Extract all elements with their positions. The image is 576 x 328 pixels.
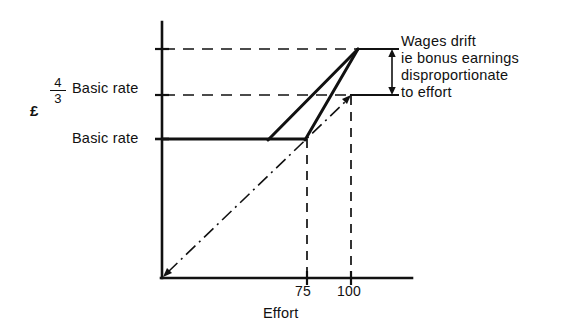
wages-drift-annotation: Wages drift ie bonus earnings disproport… [401,33,519,101]
annotation-line-4: to effort [401,84,519,101]
axis-group [161,22,412,278]
series-proportional-effort-reference [168,100,347,272]
annotation-line-2: ie bonus earnings [401,50,519,67]
y-tick-fraction-four-thirds: 4 3 [50,76,66,105]
y-axis-currency-symbol: £ [30,102,39,119]
reference-lines-group [164,49,358,272]
fraction-numerator: 4 [50,76,66,89]
x-tick-label-100: 100 [337,283,361,299]
bracket-arrowhead-down-icon [388,87,395,95]
annotation-line-1: Wages drift [401,33,519,50]
x-axis-title: Effort [263,305,299,321]
x-tick-label-75: 75 [295,283,311,299]
proportional-effort-reference-group [163,95,351,277]
fraction-denominator: 3 [50,92,66,105]
y-tick-label-basic-rate: Basic rate [72,130,138,146]
annotation-line-3: disproportionate [401,67,519,84]
wages-drift-bracket-group [350,49,399,95]
bracket-arrowhead-up-icon [388,49,395,57]
y-tick-label-four-thirds-basic-rate: Basic rate [72,80,138,96]
wage-drift-chart-figure: £ 4 3 Basic rate Basic rate 75 100 Effor… [0,0,576,328]
